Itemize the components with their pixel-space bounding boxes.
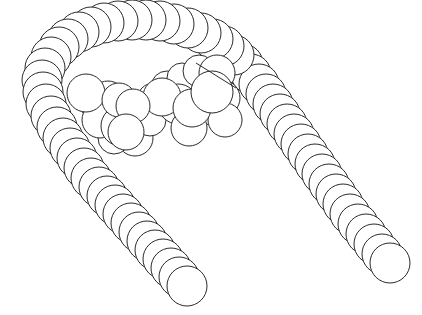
chain-right-arm: [223, 44, 410, 283]
chain-bead: [167, 266, 207, 306]
cluster-bead: [191, 71, 233, 113]
bead-cluster: [67, 55, 242, 156]
chain-bead: [370, 243, 410, 283]
cluster-bead: [108, 114, 144, 150]
bead-chain-diagram: [0, 0, 422, 315]
cluster-bead: [67, 74, 105, 112]
